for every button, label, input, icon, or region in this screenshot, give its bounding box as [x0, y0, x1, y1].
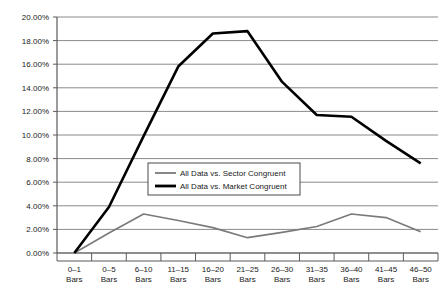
y-axis-tick-label: 0.00% [26, 249, 49, 258]
x-axis-tick-label: 0–1 [68, 265, 82, 274]
y-axis-tick-label: 4.00% [26, 202, 49, 211]
x-axis-tick-label-unit: Bars [239, 275, 255, 284]
x-axis-tick-label-unit: Bars [343, 275, 359, 284]
y-axis-tick-label: 10.00% [22, 131, 49, 140]
y-axis-labels: 20.00%18.00%16.00%14.00%12.00%10.00%8.00… [22, 13, 57, 258]
y-axis-tick-label: 14.00% [22, 84, 49, 93]
y-axis-tick-label: 16.00% [22, 60, 49, 69]
x-axis-tick-label-unit: Bars [309, 275, 325, 284]
x-axis-tick-label-unit: Bars [135, 275, 151, 284]
x-axis-tick-label: 36–40 [340, 265, 363, 274]
x-axis-tick-label-unit: Bars [412, 275, 428, 284]
chart-canvas: 20.00%18.00%16.00%14.00%12.00%10.00%8.00… [0, 0, 444, 294]
x-axis-tick-label-unit: Bars [378, 275, 394, 284]
chart-legend: All Data vs. Sector CongruentAll Data vs… [148, 163, 300, 195]
x-axis-ticks [57, 253, 438, 261]
x-axis-line [57, 253, 438, 261]
y-axis-tick-label: 20.00% [22, 13, 49, 22]
line-chart: 20.00%18.00%16.00%14.00%12.00%10.00%8.00… [0, 0, 444, 294]
y-axis-tick-label: 8.00% [26, 155, 49, 164]
x-axis-tick-label-unit: Bars [205, 275, 221, 284]
x-axis-labels: 0–1Bars0–5Bars6–10Bars11–15Bars16–20Bars… [66, 265, 432, 284]
x-axis-tick-label-unit: Bars [170, 275, 186, 284]
x-axis-tick-label: 46–50 [410, 265, 433, 274]
legend-label: All Data vs. Sector Congruent [180, 169, 286, 178]
y-axis-tick-label: 12.00% [22, 107, 49, 116]
x-axis-tick-label: 16–20 [202, 265, 225, 274]
x-axis-tick-label-unit: Bars [66, 275, 82, 284]
x-axis-tick-label: 31–35 [306, 265, 329, 274]
x-axis-tick-label: 41–45 [375, 265, 398, 274]
legend-label: All Data vs. Market Congruent [180, 182, 287, 191]
x-axis-tick-label: 11–15 [167, 265, 189, 274]
x-axis-tick-label: 6–10 [135, 265, 153, 274]
x-axis-tick-label-unit: Bars [101, 275, 117, 284]
y-axis-tick-label: 18.00% [22, 37, 49, 46]
x-axis-tick-label: 0–5 [102, 265, 116, 274]
x-axis-tick-label-unit: Bars [274, 275, 290, 284]
x-axis-tick-label: 21–25 [236, 265, 259, 274]
y-axis-tick-label: 2.00% [26, 225, 49, 234]
y-axis-tick-label: 6.00% [26, 178, 49, 187]
x-axis-tick-label: 26–30 [271, 265, 294, 274]
series-line-sector-congruent [74, 214, 420, 253]
